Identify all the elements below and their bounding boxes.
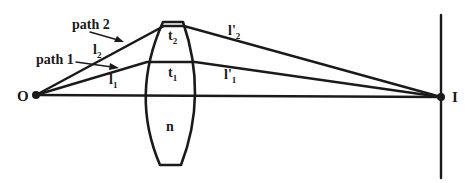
- path-2-label: path 2: [72, 17, 110, 32]
- segment-l1-prime-label: l'1: [224, 67, 237, 85]
- image-point-I: [437, 93, 445, 101]
- thickness-t2-label: t2: [168, 28, 178, 46]
- path-2-arrow: [90, 32, 124, 42]
- object-label: O: [17, 88, 29, 104]
- optical-axis: [36, 95, 441, 97]
- segment-l1-label: l1: [109, 72, 118, 90]
- object-point-O: [32, 91, 40, 99]
- lens-ray-diagram: O I n path 2 path 1 l2 l1 t2 t1 l'2 l'1: [0, 0, 473, 183]
- segment-l2-label: l2: [93, 42, 102, 60]
- image-label: I: [452, 89, 458, 105]
- lens-index-label: n: [166, 119, 174, 134]
- path-1-label: path 1: [36, 52, 74, 67]
- thickness-t1-label: t1: [168, 65, 178, 83]
- lens-outline: [146, 22, 195, 165]
